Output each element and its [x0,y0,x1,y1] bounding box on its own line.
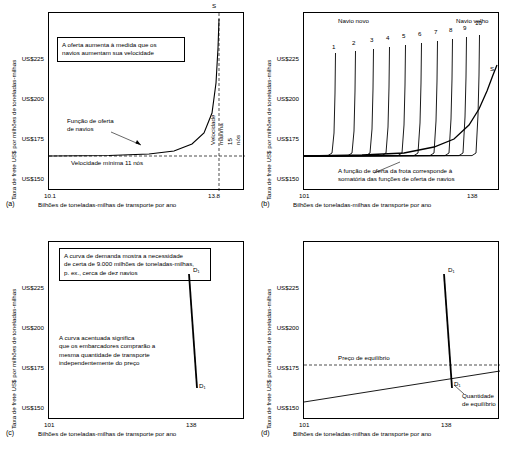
panel-a-note-min-speed: Velocidade mínima 11 nós [71,159,143,167]
panel-a-xlabel: Bilhões de toneladas-milhas de transport… [38,201,176,208]
panel-b-ytick-225: US$225 [267,55,299,62]
panel-b-id: (b) [261,200,270,207]
panel-a-xtick-min: 10.1 [44,192,56,199]
panel-c-ytick-175: US$175 [12,364,44,371]
panel-d-note-equilibrium-quantity: Quantidade de equilíbrio [462,392,502,409]
panel-a-note-max-speed: Velocidade máxima 15 nós [209,136,243,145]
panel-d-note-equilibrium-price: Preço de equilíbrio [338,354,390,362]
panel-a-id: (a) [6,200,15,207]
panel-b-ship-num-1: 1 [332,43,335,50]
panel-b-label-navio-velho: Navio velho [456,17,488,24]
panel-b-ship-num-4: 4 [386,34,389,41]
panel-b-ship-num-6: 6 [418,30,421,37]
panel-d-ytick-200: US$200 [267,324,299,331]
panel-a-ytick-225: US$225 [12,55,44,62]
panel-b-ship-num-10: 10 [475,19,482,26]
panel-d-plot: D₁ D₁ Preço de equilíbrio Quantidade de … [303,241,499,419]
panel-b-ytick-150: US$150 [267,175,299,182]
panel-b-ship-num-8: 8 [449,26,452,33]
panel-a: Taxa de frete US$ por milhões de tonelad… [0,0,254,230]
panel-b-note-fleet-supply: A função de oferta da frota corresponde … [338,167,484,184]
panel-c-xlabel: Bilhões de toneladas-milhas de transport… [38,430,176,437]
panel-b-ytick-200: US$200 [267,95,299,102]
panel-d-demand-curve [444,274,452,388]
panel-a-note-supply-speed: A oferta aumenta à medida que os navios … [57,37,185,62]
panel-b: Taxa de frete US$ por milhões de tonelad… [255,0,509,230]
panel-c-ytick-150: US$150 [12,404,44,411]
panel-d-ytick-150: US$150 [267,404,299,411]
panel-c-plot: A curva de demanda mostra a necessidade … [48,241,244,419]
panel-d-xlabel: Bilhões de toneladas-milhas de transport… [293,430,431,437]
panel-a-plot: S A oferta aumenta à medida que os navio… [48,12,244,190]
panel-d-ytick-225: US$225 [267,284,299,291]
panel-c-ytick-225: US$225 [12,284,44,291]
panel-b-label-navio-novo: Navio novo [338,17,369,24]
panel-b-xlabel: Bilhões de toneladas-milhas de transport… [293,201,431,208]
panel-b-ytick-175: US$175 [267,135,299,142]
panel-d-xtick-min: 101 [299,421,309,428]
panel-a-ytick-150: US$150 [12,175,44,182]
panel-c-demand-curve [189,274,197,388]
panel-b-ship-num-2: 2 [352,39,355,46]
panel-b-ship-num-7: 7 [434,28,437,35]
panel-c-ytick-200: US$200 [12,324,44,331]
panel-a-ytick-175: US$175 [12,135,44,142]
panel-d-ytick-175: US$175 [267,364,299,371]
panel-c-note-steep-curve: A curva acentuada significa que os embar… [59,334,175,368]
panel-a-curve-label-s: S [212,2,216,9]
panel-d: Taxa de frete US$ por milhões de tonelad… [255,229,509,459]
panel-c-curve-label-d1-bottom: D₁ [199,382,206,389]
panel-a-note-supply-function: Função de oferta de navios [67,117,137,134]
panel-c-curve-label-d1-top: D₁ [193,266,200,273]
panel-c-note-demand: A curva de demanda mostra a necessidade … [59,248,211,281]
panel-b-curve-label-s: S [490,65,494,72]
panel-b-xtick-min: 101 [299,192,309,199]
panel-a-ytick-200: US$200 [12,95,44,102]
panel-c: Taxa de frete US$ por milhões de tonelad… [0,229,254,459]
panel-d-curve-label-d1-top: D₁ [448,266,455,273]
panel-b-plot: Navio novo Navio velho 1 2 3 4 5 6 7 8 9… [303,12,499,190]
panel-b-ship-num-3: 3 [370,36,373,43]
panel-b-ship-num-9: 9 [463,24,466,31]
panel-c-xtick-min: 101 [44,421,54,428]
panel-b-ship-num-5: 5 [402,32,405,39]
figure-root: Taxa de frete US$ por milhões de tonelad… [0,0,509,459]
panel-a-xtick-max: 13.8 [208,192,220,199]
panel-b-xtick-max: 138 [467,192,477,199]
panel-d-xtick-max: 138 [441,421,451,428]
panel-c-id: (c) [6,429,14,436]
panel-d-curve-label-d1-bottom: D₁ [454,380,461,387]
panel-b-ship-curves [304,35,480,156]
panel-a-leader-arrow [136,140,142,145]
panel-d-id: (d) [261,429,270,436]
panel-c-xtick-max: 138 [186,421,196,428]
